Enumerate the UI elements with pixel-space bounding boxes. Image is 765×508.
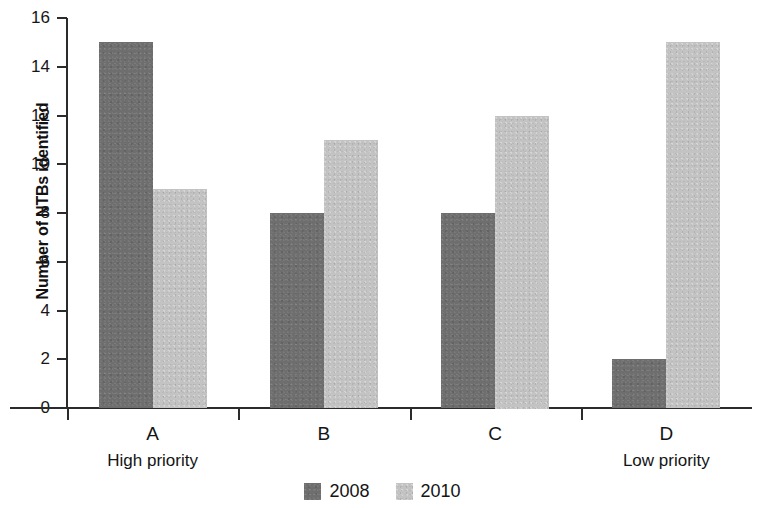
x-tick-mark bbox=[67, 409, 69, 420]
y-tick-label: 10 bbox=[0, 155, 50, 172]
y-tick-label: 2 bbox=[0, 350, 50, 367]
legend-swatch-2008 bbox=[304, 483, 321, 500]
bar-a-2008 bbox=[99, 42, 153, 408]
y-tick-label: 12 bbox=[0, 107, 50, 124]
x-tick-mark bbox=[581, 409, 583, 420]
legend-label-2008: 2008 bbox=[329, 482, 369, 500]
category-note-d: Low priority bbox=[576, 452, 756, 469]
category-label-c: C bbox=[435, 424, 555, 443]
bar-c-2010 bbox=[495, 116, 549, 409]
category-note-a: High priority bbox=[63, 452, 243, 469]
category-label-d: D bbox=[606, 424, 726, 443]
y-tick-label: 16 bbox=[0, 9, 50, 26]
legend-label-2010: 2010 bbox=[421, 482, 461, 500]
bar-a-2010 bbox=[153, 189, 207, 408]
bar-d-2008 bbox=[612, 359, 666, 408]
category-label-b: B bbox=[264, 424, 384, 443]
y-tick-label: 4 bbox=[0, 302, 50, 319]
category-label-a: A bbox=[93, 424, 213, 443]
y-tick-label: 8 bbox=[0, 204, 50, 221]
y-tick-label: 14 bbox=[0, 58, 50, 75]
legend-swatch-2010 bbox=[396, 483, 413, 500]
bar-b-2008 bbox=[270, 213, 324, 408]
legend-item-2008: 2008 bbox=[304, 482, 369, 500]
y-axis-line bbox=[66, 18, 68, 409]
x-tick-mark bbox=[410, 409, 412, 420]
chart-legend: 20082010 bbox=[0, 482, 765, 500]
bar-chart: Number of NTBs identified 1614121086420 … bbox=[0, 0, 765, 508]
legend-item-2010: 2010 bbox=[396, 482, 461, 500]
x-tick-mark bbox=[238, 409, 240, 420]
bar-c-2008 bbox=[441, 213, 495, 408]
bar-b-2010 bbox=[324, 140, 378, 408]
y-tick-label: 6 bbox=[0, 253, 50, 270]
bar-d-2010 bbox=[666, 42, 720, 408]
